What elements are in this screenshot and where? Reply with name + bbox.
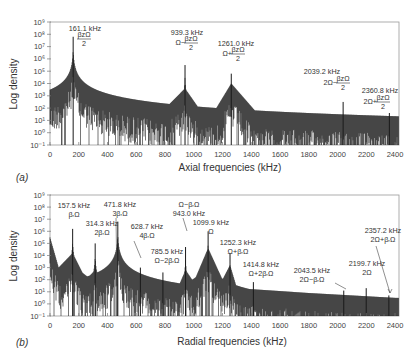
y-axis-ticks-a: 10⁻¹10⁰10¹10²10³10⁴10⁵10⁶10⁷10⁸10⁹ (30, 18, 51, 150)
expr-prefix: 2Ω+ (363, 97, 377, 106)
x-tick-label: 600 (130, 150, 143, 159)
expr-denominator: 2 (341, 83, 345, 92)
y-tick-label: 10⁰ (34, 128, 45, 137)
noise-band (50, 52, 399, 145)
peak-annotation: Ω (208, 227, 214, 236)
peak-annotation: Ω+2βᵣΩ (249, 269, 274, 278)
expr-denominator: 2 (82, 39, 86, 48)
x-tick-label: 2400 (387, 150, 404, 159)
x-tick-label: 2200 (358, 321, 375, 330)
peak-annotation: 1099.9 kHz (193, 218, 230, 227)
peak-annotation: 471.8 kHz (104, 200, 137, 209)
expr-numerator: βzΩ (77, 30, 91, 39)
y-axis-title-b: Log density (8, 230, 19, 281)
x-axis-ticks-b: 0200400600800100012001400160018002000220… (48, 313, 403, 330)
y-tick-label: 10⁻¹ (30, 312, 45, 321)
y-tick-label: 10⁷ (34, 42, 45, 51)
y-tick-label: 10⁹ (33, 191, 45, 200)
peak-annotation: 1414.8 kHz (243, 260, 280, 269)
x-tick-label: 1200 (214, 150, 231, 159)
peak-annotation: Ω−βᵣΩ (179, 200, 200, 209)
y-tick-label: 10⁻¹ (30, 141, 45, 150)
x-tick-label: 2000 (329, 150, 346, 159)
panel-a-axial: 161.1 kHzβzΩ2939.3 kHzΩ−βzΩ21261.0 kHzΩ+… (8, 18, 403, 184)
expr-numerator: βzΩ (336, 74, 350, 83)
peak-annotation: 3βᵣΩ (112, 209, 128, 218)
expr-prefix: 2Ω− (323, 78, 337, 87)
x-tick-label: 800 (159, 150, 172, 159)
peak-annotation: 1252.3 kHz (220, 238, 257, 247)
x-tick-label: 200 (72, 321, 85, 330)
y-tick-label: 10⁸ (33, 30, 45, 39)
y-tick-label: 10⁰ (34, 299, 45, 308)
panel-label-a: (a) (16, 172, 28, 183)
x-tick-label: 1600 (272, 150, 289, 159)
figure: 161.1 kHzβzΩ2939.3 kHzΩ−βzΩ21261.0 kHzΩ+… (0, 0, 416, 358)
y-tick-label: 10⁶ (34, 54, 45, 63)
peak-annotation: 2Ω (362, 268, 372, 277)
peak-annotation: Ω+βᵣΩ (228, 247, 249, 256)
y-tick-label: 10¹ (34, 116, 45, 125)
y-tick-label: 10² (34, 104, 45, 113)
leader-line (376, 246, 390, 293)
peak-annotation: 2357.2 kHz (365, 226, 402, 235)
peak-annotation: 785.5 kHz (151, 247, 184, 256)
y-axis-ticks-b: 10⁻¹10⁰10¹10²10³10⁴10⁵10⁶10⁷10⁸10⁹ (30, 191, 51, 321)
x-tick-label: 1400 (243, 321, 260, 330)
panel-b-radial: 157.5 kHzβᵣΩ314.3 kHz2βᵣΩ471.8 kHz3βᵣΩ62… (8, 191, 403, 349)
y-tick-label: 10⁵ (34, 67, 45, 76)
peak-annotation: 628.7 kHz (131, 222, 164, 231)
y-tick-label: 10⁶ (34, 227, 45, 236)
x-tick-label: 400 (101, 321, 114, 330)
x-axis-title-a: Axial frequencies (kHz) (179, 162, 282, 173)
noise-band (50, 237, 399, 316)
y-tick-label: 10¹ (34, 287, 45, 296)
x-tick-label: 1800 (300, 321, 317, 330)
expr-denominator: 2 (189, 43, 193, 52)
expr-numerator: βzΩ (376, 93, 390, 102)
expr-denominator: 2 (381, 102, 385, 111)
y-axis-title-a: Log density (8, 58, 19, 109)
x-tick-label: 1400 (243, 150, 260, 159)
y-tick-label: 10⁵ (34, 239, 45, 248)
arrow-head (388, 289, 392, 293)
x-tick-label: 2000 (329, 321, 346, 330)
peak-annotation: 157.5 kHz (58, 201, 91, 210)
x-tick-label: 2400 (387, 321, 404, 330)
x-tick-label: 1000 (185, 321, 202, 330)
leader-line (134, 241, 141, 258)
y-tick-label: 10⁴ (33, 251, 45, 260)
peak-annotation: Ω−2βᵣΩ (155, 256, 180, 265)
y-tick-label: 10⁸ (33, 203, 45, 212)
y-tick-label: 10³ (34, 263, 45, 272)
peak-annotation: 2βᵣΩ (94, 228, 110, 237)
leader-line (183, 218, 187, 231)
x-tick-label: 400 (101, 150, 114, 159)
peak-annotation: 2Ω+βᵣΩ (371, 235, 396, 244)
peak-annotation: 2039.2 kHz (304, 67, 341, 76)
x-tick-label: 1200 (214, 321, 231, 330)
peak-annotation: 2043.5 kHz (294, 266, 331, 275)
x-tick-label: 600 (130, 321, 143, 330)
expr-numerator: βzΩ (231, 45, 245, 54)
x-tick-label: 0 (48, 150, 52, 159)
expr-denominator: 2 (236, 54, 240, 63)
y-tick-label: 10⁷ (34, 215, 45, 224)
x-axis-title-b: Radial frequencies (kHz) (177, 336, 287, 347)
x-tick-label: 1600 (272, 321, 289, 330)
y-tick-label: 10⁴ (33, 79, 45, 88)
peak-annotation: 314.3 kHz (86, 219, 119, 228)
peak-annotation: 2Ω−βᵣΩ (300, 275, 325, 284)
panel-label-b: (b) (16, 337, 28, 348)
x-tick-label: 800 (159, 321, 172, 330)
expr-numerator: βzΩ (184, 34, 198, 43)
peak-annotation: 943.0 kHz (173, 209, 206, 218)
leader-line (335, 283, 346, 289)
peak-annotation: βᵣΩ (68, 210, 80, 219)
x-tick-label: 200 (72, 150, 85, 159)
x-tick-label: 1000 (185, 150, 202, 159)
x-tick-label: 2200 (358, 150, 375, 159)
x-tick-label: 0 (48, 321, 52, 330)
peak-annotation: 4βᵣΩ (139, 231, 155, 240)
y-tick-label: 10³ (34, 91, 45, 100)
